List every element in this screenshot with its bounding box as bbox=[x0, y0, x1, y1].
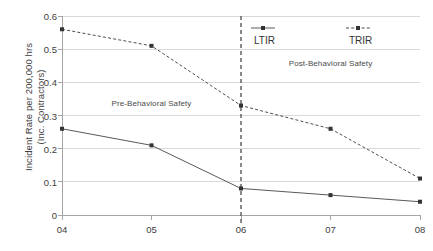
incident-rate-line-chart: Incident Rate per 200,000 hrs (Inc. Cont… bbox=[0, 0, 433, 251]
data-point-ltir-07 bbox=[329, 193, 333, 197]
legend-marker bbox=[356, 26, 360, 30]
data-point-ltir-04 bbox=[60, 127, 64, 131]
annotation-post-behavioral-safety: Post-Behavioral Safety bbox=[289, 59, 373, 68]
data-point-ltir-06 bbox=[239, 186, 243, 190]
data-point-trir-04 bbox=[60, 27, 64, 31]
legend-label-trir: TRIR bbox=[349, 35, 372, 46]
legend-swatch-ltir bbox=[250, 22, 276, 34]
data-point-trir-08 bbox=[418, 177, 422, 181]
annotation-pre-behavioral-safety: Pre-Behavioral Safety bbox=[112, 99, 192, 108]
legend-marker bbox=[261, 26, 265, 30]
data-point-ltir-08 bbox=[418, 200, 422, 204]
legend-item-trir[interactable]: TRIR bbox=[345, 22, 372, 46]
data-point-trir-05 bbox=[150, 44, 154, 48]
data-point-trir-07 bbox=[329, 127, 333, 131]
legend-swatch-trir bbox=[345, 22, 371, 34]
legend-item-ltir[interactable]: LTIR bbox=[250, 22, 276, 46]
data-point-ltir-05 bbox=[150, 143, 154, 147]
legend-label-ltir: LTIR bbox=[254, 35, 275, 46]
data-point-trir-06 bbox=[239, 104, 243, 108]
